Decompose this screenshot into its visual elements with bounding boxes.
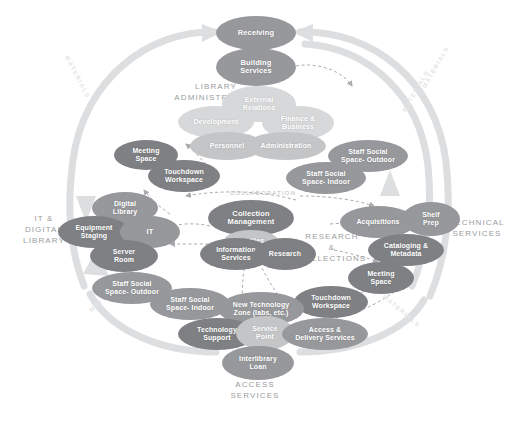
node-label-line-1: External: [245, 96, 273, 103]
node-label: Access & Delivery Services: [292, 326, 358, 341]
node-staff-social-space-indoor-top[interactable]: Staff Social Space- Indoor: [286, 162, 366, 194]
node-label-line-2: Prep: [423, 219, 439, 226]
node-label: Information Services: [213, 246, 259, 261]
node-label: Staff Social Space- Indoor: [299, 170, 353, 185]
node-label-line-2: Delivery Services: [295, 334, 355, 341]
node-label-line-1: Staff Social: [348, 148, 387, 155]
node-label-line-1: Touchdown: [164, 168, 204, 175]
node-label: Interlibrary Loan: [236, 355, 280, 370]
node-label-line-2: Business: [282, 123, 314, 130]
node-interlibrary-loan[interactable]: Interlibrary Loan: [222, 346, 294, 380]
node-receiving[interactable]: Receiving: [216, 16, 296, 50]
node-label-line-2: Library: [113, 208, 137, 215]
node-label-line-2: Space- Outdoor: [105, 288, 159, 295]
node-label: Personnel: [207, 142, 248, 150]
node-label: Research: [266, 250, 304, 258]
node-label: Meeting Space: [364, 270, 397, 285]
node-label-line-1: Service: [252, 325, 278, 332]
node-server-room[interactable]: Server Room: [90, 240, 158, 272]
node-label: Technology Support: [194, 326, 240, 341]
node-label: Collection Management: [225, 210, 278, 226]
node-administration[interactable]: Administration: [246, 132, 326, 160]
node-label: Administration: [258, 142, 315, 150]
node-label: Finance & Business: [278, 115, 318, 130]
node-label-line-2: Management: [228, 217, 275, 226]
node-label: Touchdown Workspace: [161, 168, 207, 183]
node-label-line-1: Interlibrary: [239, 355, 277, 362]
node-access-delivery-services[interactable]: Access & Delivery Services: [282, 318, 368, 350]
node-label: Staff Social Space- Outdoor: [338, 148, 398, 163]
node-label-line-2: Zone (labs, etc.): [234, 309, 289, 316]
node-label: Building Services: [237, 59, 275, 75]
node-label: Development: [190, 118, 241, 126]
node-label-line-1: Equipment: [75, 224, 112, 231]
node-label-line-1: Staff Social: [170, 296, 209, 303]
node-label-line-2: Space: [135, 155, 156, 162]
node-touchdown-workspace-right[interactable]: Touchdown Workspace: [294, 286, 368, 318]
node-label-line-2: Staging: [81, 232, 107, 239]
node-label: IT: [144, 228, 157, 236]
node-label: New Technology Zone (labs, etc.): [230, 301, 293, 316]
node-label-line-2: Support: [203, 334, 231, 341]
node-label-line-2: Relations: [243, 104, 275, 111]
node-label: Staff Social Space- Indoor: [163, 296, 217, 311]
node-label-line-1: Touchdown: [311, 294, 351, 301]
node-label-line-2: Metadata: [390, 250, 421, 257]
node-label: Service Point: [249, 325, 281, 340]
node-label-line-1: Meeting: [367, 270, 394, 277]
node-label-line-1: Server: [113, 248, 135, 255]
node-label: Meeting Space: [129, 147, 162, 162]
node-label-line-1: Technology: [197, 326, 237, 333]
node-label-line-1: Staff Social: [306, 170, 345, 177]
node-touchdown-workspace-left[interactable]: Touchdown Workspace: [148, 160, 220, 192]
node-label: Touchdown Workspace: [308, 294, 354, 309]
node-label-line-2: Services: [221, 254, 251, 261]
node-label: Acquisitions: [353, 218, 402, 226]
node-staff-social-space-indoor-left[interactable]: Staff Social Space- Indoor: [150, 288, 230, 320]
node-label-line-1: Digital: [114, 200, 136, 207]
node-label-line-2: Services: [240, 66, 272, 75]
node-label-line-1: Cataloging &: [384, 242, 428, 249]
node-label-line-1: Information: [216, 246, 256, 253]
node-label-line-2: Space- Indoor: [302, 178, 350, 185]
node-label-line-1: Meeting: [132, 147, 159, 154]
node-building-services[interactable]: Building Services: [216, 48, 296, 86]
node-label: Shelf Prep: [419, 211, 443, 226]
node-label-line-1: Finance &: [281, 115, 315, 122]
node-meeting-space-right[interactable]: Meeting Space: [348, 262, 414, 294]
node-label: Server Room: [110, 248, 138, 263]
node-shelf-prep[interactable]: Shelf Prep: [402, 202, 460, 236]
node-label-line-2: Workspace: [165, 176, 203, 183]
node-label: Receiving: [235, 29, 277, 37]
node-label: Equipment Staging: [72, 224, 115, 239]
node-label-line-1: New Technology: [233, 301, 290, 308]
node-label-line-2: Room: [114, 256, 134, 263]
node-label: External Relations: [240, 96, 278, 111]
diagram-canvas: LIBRARY ADMINISTRATION IT & DIGITAL LIBR…: [0, 0, 509, 421]
node-label-line-2: Workspace: [312, 302, 350, 309]
node-label-line-2: Space- Outdoor: [341, 156, 395, 163]
node-label: Cataloging & Metadata: [381, 242, 431, 257]
node-label-line-1: Shelf: [422, 211, 440, 218]
node-label-line-2: Space- Indoor: [166, 304, 214, 311]
node-label-line-1: Access &: [309, 326, 341, 333]
node-label-line-2: Point: [256, 333, 274, 340]
node-label: Staff Social Space- Outdoor: [102, 280, 162, 295]
node-research[interactable]: Research: [254, 238, 316, 270]
node-label-line-2: Loan: [249, 363, 266, 370]
node-layer: Receiving Building Services External Rel…: [0, 0, 509, 421]
node-label-line-2: Space: [370, 278, 391, 285]
node-label: Digital Library: [110, 200, 140, 215]
node-label-line-1: Staff Social: [112, 280, 151, 287]
